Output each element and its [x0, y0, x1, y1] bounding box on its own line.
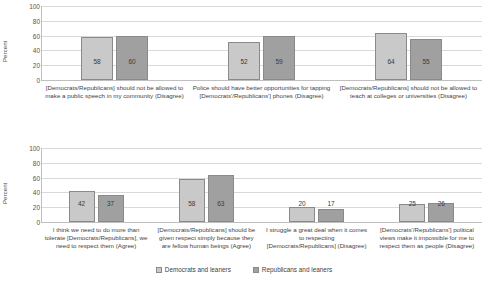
bar-value-label: 25: [400, 200, 424, 207]
category-label: Police should have better opportunities …: [192, 84, 331, 100]
legend-swatch-icon: [156, 267, 162, 273]
bar: 25: [399, 204, 425, 223]
bar-value-label: 26: [429, 200, 453, 207]
bar: 20: [289, 207, 315, 222]
legend-swatch-icon: [253, 267, 259, 273]
bar: 58: [179, 179, 205, 222]
bar: 58: [81, 37, 113, 80]
y-axis-tick-label: 20: [33, 62, 40, 69]
bar: 64: [375, 33, 407, 80]
y-axis-tick-label: 20: [33, 204, 40, 211]
bar-value-label: 17: [319, 200, 343, 207]
category-label: [Democrats/Republicans] should not be al…: [339, 84, 478, 100]
bar-value-label: 37: [99, 200, 123, 207]
bar: 17: [318, 209, 344, 222]
plot-area-bottom: Percent 100806040200 4237586320172526 I …: [0, 142, 488, 266]
category-label: [Democrats/Republicans] should not be al…: [45, 84, 184, 100]
y-axis-label-bottom: Percent: [2, 183, 8, 204]
y-axis-tick-label: 40: [33, 47, 40, 54]
bar-value-label: 59: [264, 58, 294, 65]
y-axis-tick-label: 0: [36, 77, 40, 84]
y-axis-label-top: Percent: [2, 41, 8, 62]
y-axis-tick-label: 60: [33, 32, 40, 39]
legend-item: Republicans and leaners: [253, 266, 332, 273]
chart-panel-top: Percent 100806040200 586052596455 [Democ…: [0, 0, 488, 136]
category-labels-top: [Democrats/Republicans] should not be al…: [41, 84, 482, 124]
bar: 42: [69, 191, 95, 222]
y-axis-ticks-top: 100806040200: [14, 0, 40, 136]
bar-group-container-bottom: 4237586320172526: [41, 148, 482, 222]
category-label: [Democrats/Republicans] should be given …: [154, 226, 258, 251]
bar-value-label: 58: [82, 58, 112, 65]
bar: 26: [428, 203, 454, 222]
bar-value-label: 64: [376, 58, 406, 65]
bar-value-label: 55: [411, 58, 441, 65]
gridline: [41, 222, 482, 223]
bar-value-label: 42: [70, 200, 94, 207]
plot-area-top: Percent 100806040200 586052596455 [Democ…: [0, 0, 488, 136]
bar-value-label: 60: [117, 58, 147, 65]
bar: 52: [228, 42, 260, 80]
bar: 55: [410, 39, 442, 80]
chart-panel-bottom: Percent 100806040200 4237586320172526 I …: [0, 142, 488, 266]
legend-label: Republicans and leaners: [262, 266, 332, 273]
bar-value-label: 20: [290, 200, 314, 207]
y-axis-tick-label: 80: [33, 17, 40, 24]
bar-value-label: 52: [229, 58, 259, 65]
y-axis-tick-label: 80: [33, 159, 40, 166]
chart-legend: Democrats and leanersRepublicans and lea…: [0, 266, 488, 273]
y-axis-tick-label: 100: [29, 3, 40, 10]
legend-label: Democrats and leaners: [165, 266, 231, 273]
bar-group-container-top: 586052596455: [41, 6, 482, 80]
y-axis-tick-label: 40: [33, 189, 40, 196]
bar: 59: [263, 36, 295, 80]
y-axis-tick-label: 0: [36, 219, 40, 226]
bar: 60: [116, 36, 148, 80]
category-labels-bottom: I think we need to do more than tolerate…: [41, 226, 482, 266]
category-label: [Democrats'/Republicans'] political view…: [375, 226, 479, 251]
y-axis-tick-label: 60: [33, 174, 40, 181]
bar-value-label: 63: [209, 200, 233, 207]
chart-page: Percent 100806040200 586052596455 [Democ…: [0, 0, 488, 286]
y-axis-tick-label: 100: [29, 145, 40, 152]
category-label: I think we need to do more than tolerate…: [44, 226, 148, 251]
category-label: I struggle a great deal when it comes to…: [265, 226, 369, 251]
gridline: [41, 80, 482, 81]
bar-value-label: 58: [180, 200, 204, 207]
bar: 37: [98, 195, 124, 222]
bar: 63: [208, 175, 234, 222]
y-axis-ticks-bottom: 100806040200: [14, 142, 40, 266]
legend-item: Democrats and leaners: [156, 266, 231, 273]
